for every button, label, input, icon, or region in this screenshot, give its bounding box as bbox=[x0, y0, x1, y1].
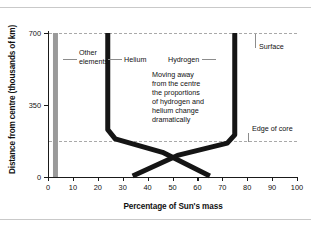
note-line-1: Moving away bbox=[152, 70, 194, 79]
note-line-5: helium change bbox=[152, 106, 199, 115]
x-tick-label-10: 10 bbox=[62, 183, 84, 192]
label-surface: Surface bbox=[259, 42, 284, 51]
hydrogen-leader bbox=[202, 59, 216, 60]
x-tick-80 bbox=[247, 177, 248, 181]
surface-reference-line bbox=[49, 33, 297, 34]
note-line-6: dramatically bbox=[152, 115, 190, 124]
label-other-elements-line2: elements bbox=[79, 57, 108, 66]
y-tick-700 bbox=[44, 33, 48, 34]
x-tick-label-0: 0 bbox=[37, 183, 59, 192]
y-tick-label-350: 350 bbox=[20, 101, 41, 110]
x-tick-30 bbox=[123, 177, 124, 181]
x-tick-50 bbox=[173, 177, 174, 181]
x-tick-label-100: 100 bbox=[286, 183, 308, 192]
x-tick-label-90: 90 bbox=[261, 183, 283, 192]
label-helium: Helium bbox=[124, 55, 146, 64]
x-tick-label-30: 30 bbox=[112, 183, 134, 192]
helium-leader bbox=[108, 59, 122, 60]
x-tick-label-40: 40 bbox=[137, 183, 159, 192]
x-tick-20 bbox=[98, 177, 99, 181]
x-tick-40 bbox=[148, 177, 149, 181]
x-tick-0 bbox=[48, 177, 49, 181]
y-tick-label-0: 0 bbox=[20, 173, 41, 182]
x-tick-90 bbox=[272, 177, 273, 181]
x-tick-label-20: 20 bbox=[87, 183, 109, 192]
figure-bottom-rule bbox=[0, 219, 311, 220]
note-line-3: the proportions bbox=[152, 88, 200, 97]
other-elements-leader bbox=[63, 59, 77, 60]
y-tick-label-700: 700 bbox=[20, 29, 41, 38]
edge-of-core-leader bbox=[248, 133, 249, 142]
x-tick-label-80: 80 bbox=[236, 183, 258, 192]
label-other-elements-line1: Other bbox=[79, 48, 97, 57]
label-hydrogen: Hydrogen bbox=[168, 55, 199, 64]
y-axis-title: Distance from centre (thousands of km) bbox=[8, 14, 17, 186]
y-tick-350 bbox=[44, 105, 48, 106]
sun-composition-chart: Distance from centre (thousands of km) P… bbox=[0, 0, 311, 227]
label-edge-of-core: Edge of core bbox=[252, 124, 293, 133]
y-axis-line bbox=[48, 31, 49, 179]
note-line-4: of hydrogen and bbox=[152, 97, 204, 106]
figure-top-rule bbox=[0, 7, 311, 8]
x-tick-label-60: 60 bbox=[186, 183, 208, 192]
x-tick-10 bbox=[73, 177, 74, 181]
x-tick-label-50: 50 bbox=[162, 183, 184, 192]
x-tick-label-70: 70 bbox=[211, 183, 233, 192]
surface-leader bbox=[255, 34, 256, 48]
x-tick-70 bbox=[222, 177, 223, 181]
x-tick-100 bbox=[297, 177, 298, 181]
x-axis-title: Percentage of Sun's mass bbox=[48, 202, 298, 211]
edge-of-core-reference-line bbox=[49, 141, 297, 142]
x-tick-60 bbox=[197, 177, 198, 181]
note-line-2: from the centre bbox=[152, 79, 200, 88]
